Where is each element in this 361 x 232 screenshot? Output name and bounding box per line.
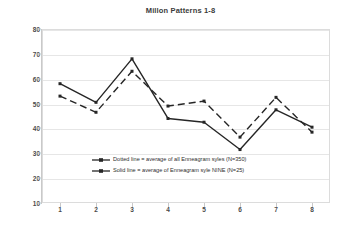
y-axis-tickmark — [37, 29, 41, 30]
y-axis-tickmark — [37, 153, 41, 154]
data-point-marker — [203, 100, 206, 103]
y-axis-tickmark — [37, 203, 41, 204]
x-axis-tickmark — [168, 203, 169, 207]
chart-legend: Dotted line = average of all Enneagram s… — [92, 154, 246, 176]
legend-label-solid: Solid line = average of Enneagram syle N… — [113, 168, 244, 174]
x-axis-tickmark — [96, 203, 97, 207]
series-lines — [42, 29, 330, 203]
data-point-marker — [131, 70, 134, 73]
x-axis-tickmark — [240, 203, 241, 207]
data-point-marker — [59, 82, 62, 85]
data-point-marker — [95, 101, 98, 104]
data-point-marker — [239, 148, 242, 151]
data-point-marker — [311, 131, 314, 134]
data-point-marker — [167, 117, 170, 120]
x-axis-tickmark — [60, 203, 61, 207]
data-point-marker — [95, 111, 98, 114]
x-axis-tick-label: 4 — [166, 206, 170, 213]
data-point-marker — [59, 95, 62, 98]
data-point-marker — [203, 121, 206, 124]
x-axis-tick-label: 6 — [238, 206, 242, 213]
x-axis-tick-label: 7 — [274, 206, 278, 213]
data-point-marker — [311, 126, 314, 129]
x-axis-tickmark — [204, 203, 205, 207]
legend-label-dashed: Dotted line = average of all Enneagram s… — [113, 157, 246, 163]
data-point-marker — [275, 108, 278, 111]
x-axis-tick-label: 5 — [202, 206, 206, 213]
data-point-marker — [275, 96, 278, 99]
x-axis-tickmark — [132, 203, 133, 207]
x-axis-tick-label: 8 — [310, 206, 314, 213]
x-axis-tickmark — [312, 203, 313, 207]
chart-container: Millon Patterns 1-8 1020304050607080 123… — [0, 0, 361, 232]
x-axis-tick-label: 2 — [94, 206, 98, 213]
legend-entry-solid: Solid line = average of Enneagram syle N… — [92, 165, 246, 176]
chart-title: Millon Patterns 1-8 — [0, 6, 361, 15]
y-axis-tickmark — [37, 53, 41, 54]
dashed-line-marker — [92, 156, 110, 164]
x-axis-tickmark — [276, 203, 277, 207]
y-axis-tickmark — [37, 128, 41, 129]
x-axis-labels: 12345678 — [42, 206, 330, 224]
legend-entry-dashed: Dotted line = average of all Enneagram s… — [92, 154, 246, 165]
x-axis-tick-label: 3 — [130, 206, 134, 213]
data-point-marker — [167, 105, 170, 108]
y-axis-tickmark — [37, 103, 41, 104]
series-line-enneagram-style-nine — [60, 59, 312, 150]
data-point-marker — [239, 136, 242, 139]
y-axis-tickmark — [37, 78, 41, 79]
x-axis-tick-label: 1 — [58, 206, 62, 213]
y-axis-tickmark — [37, 178, 41, 179]
data-point-marker — [131, 57, 134, 60]
series-line-all-enneagram-styles — [60, 71, 312, 137]
solid-line-marker — [92, 167, 110, 175]
